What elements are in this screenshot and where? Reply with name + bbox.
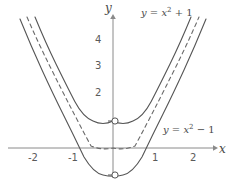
label-lower-equals: = [172, 124, 180, 135]
x-tick-label-2: 2 [190, 153, 196, 163]
graph-canvas [0, 0, 231, 193]
label-upper-lhs: y [141, 7, 147, 18]
x-tick-label-neg1: -1 [68, 153, 78, 163]
marker-vertex-lower [112, 172, 118, 178]
y-tick-label-4: 4 [95, 35, 101, 45]
label-upper-curve: y = x2 + 1 [141, 8, 193, 18]
x-axis-label: x [219, 143, 226, 155]
x-tick-label-1: 1 [152, 153, 158, 163]
label-lower-curve: y = x2 − 1 [163, 125, 215, 135]
parabola-graph-figure: y x 4 3 2 -2 -1 1 2 y = x2 + 1 y = x2 − … [0, 0, 231, 193]
marker-vertex-upper [112, 118, 118, 124]
label-lower-lhs: y [163, 124, 169, 135]
label-upper-tail: + 1 [175, 7, 193, 18]
x-axis-arrowhead [213, 145, 218, 151]
label-upper-exponent: 2 [167, 6, 171, 14]
y-tick-label-3: 3 [95, 61, 101, 71]
y-tick-label-2: 2 [95, 88, 101, 98]
label-lower-tail: − 1 [197, 124, 215, 135]
label-upper-equals: = [150, 7, 158, 18]
x-tick-label-neg2: -2 [28, 153, 38, 163]
label-lower-exponent: 2 [189, 123, 193, 131]
y-axis-label: y [105, 2, 112, 14]
